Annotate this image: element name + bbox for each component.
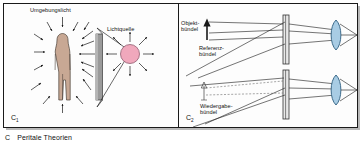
label-objektbuendel-line2: bündel (181, 26, 198, 32)
panel-id-c1: C1 (11, 114, 19, 123)
point-light-source (106, 32, 154, 76)
object-beam-rays (209, 22, 283, 40)
human-figure (55, 34, 70, 101)
focus-rays-bottom (340, 79, 357, 101)
plate-to-lens-beam-bottom (289, 79, 336, 99)
caption-text: Peritale Theorien (17, 134, 72, 141)
reconstruction-setup (190, 70, 357, 127)
figure-root: Umgebungslicht Lichtquelle C1 Objekt- bü… (0, 0, 363, 152)
holographic-plate-left (96, 34, 103, 100)
panel-id-c2-sub: 2 (191, 118, 194, 123)
lens-top (331, 20, 341, 50)
lens-bottom (331, 75, 341, 105)
label-referenzbuendel-line2: bündel (199, 51, 216, 57)
plate-to-lens-beam-top (289, 24, 336, 44)
panel-left-artwork (31, 17, 154, 113)
focus-rays-top (340, 24, 357, 46)
caption-letter: C (5, 134, 10, 141)
panel-id-c1-sub: 1 (16, 118, 19, 123)
hologram-plate-bottom (283, 70, 289, 119)
virtual-rays-dashed (206, 81, 283, 95)
label-umgebungslicht: Umgebungslicht (30, 7, 71, 13)
panel-id-c2: C2 (186, 114, 194, 123)
label-wiedergabebuendel-line2: bündel (200, 109, 217, 115)
transmitted-light-arrows (79, 31, 95, 90)
figure-caption: CPeritale Theorien (5, 134, 72, 141)
label-lichtquelle: Lichtquelle (107, 26, 134, 32)
